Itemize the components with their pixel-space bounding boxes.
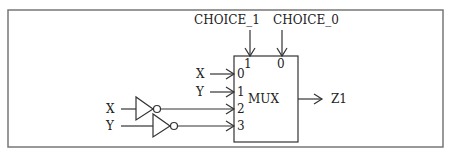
data-pin-2: 2 [237,102,245,116]
data-pin-0: 0 [237,67,245,81]
data-pin-1: 1 [237,85,245,99]
input-label-0: X [196,67,205,81]
input-label-1: Y [195,85,205,99]
input-label-2: X [106,102,115,116]
input-label-3: Y [105,119,115,133]
select-pin-1: 1 [244,57,252,71]
select-label-choice-0: CHOICE_0 [273,13,339,27]
inverter-gate-icon [153,114,170,137]
output-label: Z1 [331,92,347,106]
inverter-bubble-icon [154,106,161,113]
data-pin-3: 3 [237,119,245,133]
inverter-bubble-icon [171,123,178,130]
select-pin-0: 0 [277,57,285,71]
inverter-gate-icon [136,97,153,120]
mux-label: MUX [248,92,279,106]
select-label-choice-1: CHOICE_1 [194,13,260,27]
mux-diagram: MUX CHOICE_1 1 CHOICE_0 0 X 0 Y 1 X 2 Y … [0,0,452,157]
